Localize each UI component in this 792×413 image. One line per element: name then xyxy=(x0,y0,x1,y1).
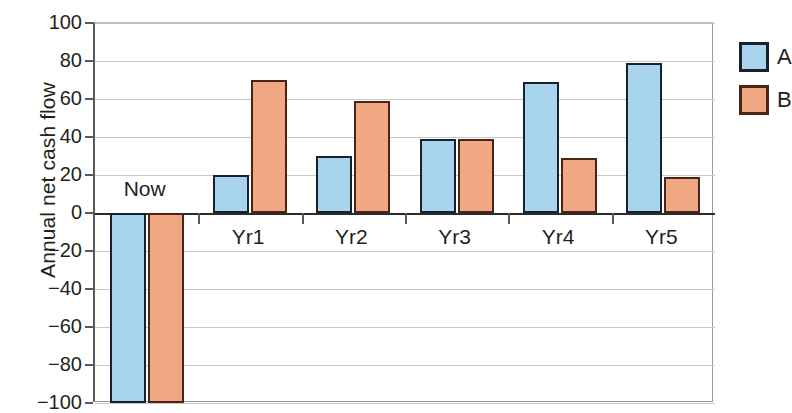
y-axis-tick-label: 80 xyxy=(0,50,82,70)
y-axis-tick-label: −80 xyxy=(0,354,82,374)
bar-now-b xyxy=(148,213,184,403)
y-axis-tick-mark xyxy=(85,136,93,138)
y-axis-tick-mark xyxy=(85,250,93,252)
y-axis-tick-label: −100 xyxy=(0,392,82,412)
bar-yr5-b xyxy=(664,177,700,213)
x-axis-label-yr5: Yr5 xyxy=(601,226,721,248)
gridline xyxy=(95,175,715,176)
y-axis-tick-mark xyxy=(85,288,93,290)
bar-yr3-b xyxy=(458,139,494,213)
plot-area xyxy=(93,22,713,402)
bar-yr3-a xyxy=(420,139,456,213)
y-axis-tick-label: −40 xyxy=(0,278,82,298)
gridline xyxy=(95,327,715,328)
x-axis-tick-mark xyxy=(612,213,614,224)
bar-yr2-b xyxy=(354,101,390,213)
chart-legend: AB xyxy=(739,42,787,128)
legend-label-b: B xyxy=(777,87,792,113)
gridline xyxy=(95,137,715,138)
bar-yr4-b xyxy=(561,158,597,213)
y-axis-tick-label: −20 xyxy=(0,240,82,260)
y-axis-tick-mark xyxy=(85,22,93,24)
bar-yr1-a xyxy=(213,175,249,213)
y-axis-tick-label: 60 xyxy=(0,88,82,108)
gridline xyxy=(95,251,715,252)
x-axis-tick-mark xyxy=(198,213,200,224)
y-axis-tick-mark xyxy=(85,326,93,328)
y-axis-tick-label: 40 xyxy=(0,126,82,146)
bar-yr4-a xyxy=(523,82,559,213)
gridline xyxy=(95,403,715,404)
x-axis-label-yr4: Yr4 xyxy=(498,226,618,248)
x-axis-label-now: Now xyxy=(85,178,205,200)
legend-item-b[interactable]: B xyxy=(739,85,787,128)
x-axis-tick-mark xyxy=(302,213,304,224)
gridline xyxy=(95,365,715,366)
x-axis-tick-mark xyxy=(508,213,510,224)
gridline xyxy=(95,99,715,100)
bar-now-a xyxy=(110,213,146,403)
bar-yr1-b xyxy=(251,80,287,213)
x-axis-tick-mark xyxy=(405,213,407,224)
gridline xyxy=(95,23,715,24)
x-axis-label-yr1: Yr1 xyxy=(188,226,308,248)
y-axis-tick-mark xyxy=(85,364,93,366)
y-axis-tick-mark xyxy=(85,402,93,404)
bar-yr5-a xyxy=(626,63,662,213)
y-axis-tick-label: 0 xyxy=(0,202,82,222)
bar-yr2-a xyxy=(316,156,352,213)
y-axis-tick-label: 20 xyxy=(0,164,82,184)
gridline xyxy=(95,289,715,290)
legend-swatch-a xyxy=(739,42,769,72)
y-axis-tick-mark xyxy=(85,98,93,100)
legend-item-a[interactable]: A xyxy=(739,42,787,85)
y-axis-tick-label: −60 xyxy=(0,316,82,336)
legend-swatch-b xyxy=(739,85,769,115)
gridline xyxy=(95,61,715,62)
x-axis-label-yr3: Yr3 xyxy=(395,226,515,248)
y-axis-tick-mark xyxy=(85,60,93,62)
y-axis-tick-mark xyxy=(85,174,93,176)
legend-label-a: A xyxy=(777,44,792,70)
y-axis-tick-label: 100 xyxy=(0,12,82,32)
x-axis-label-yr2: Yr2 xyxy=(291,226,411,248)
y-axis-tick-mark xyxy=(85,212,93,214)
